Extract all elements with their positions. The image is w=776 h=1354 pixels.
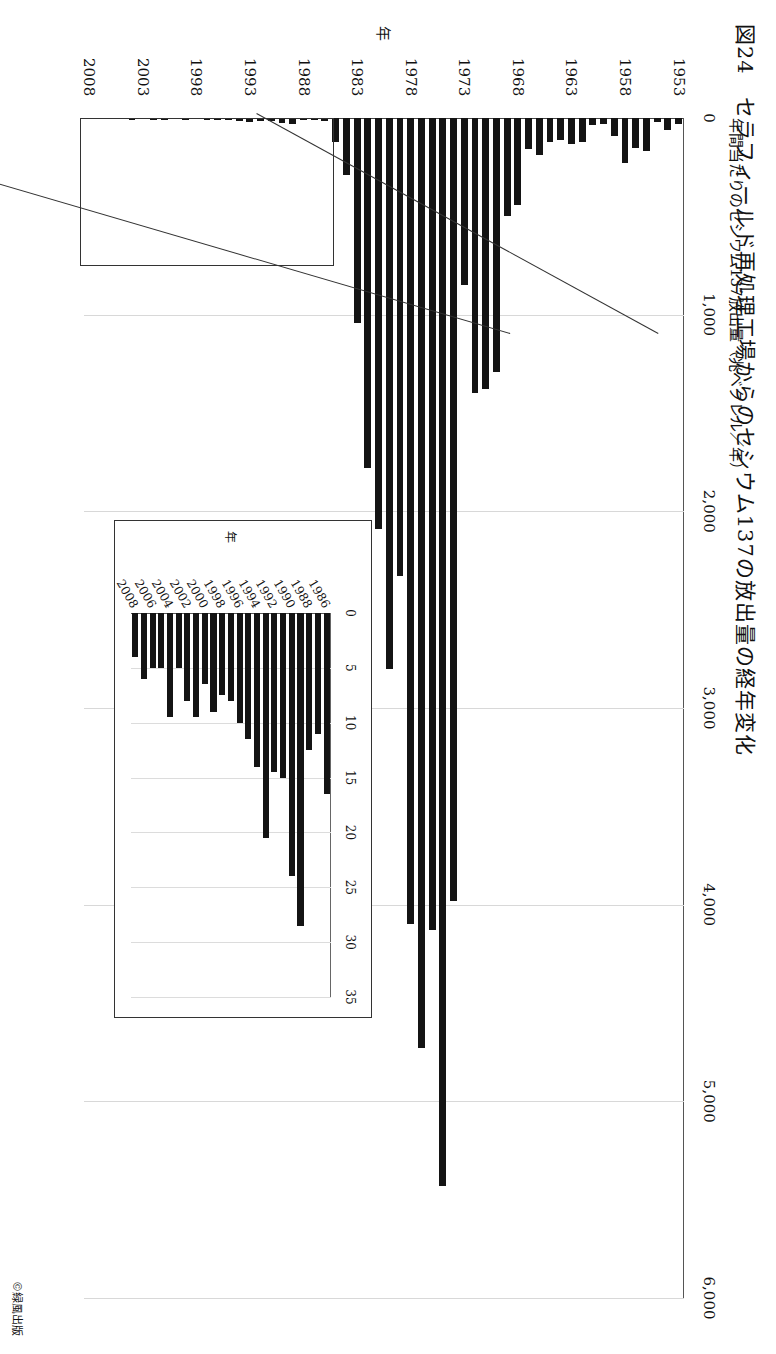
bar <box>514 118 521 205</box>
year-tick-label: 1983 <box>348 58 366 96</box>
bar-row <box>174 613 183 997</box>
bar <box>271 613 277 772</box>
bar <box>167 613 173 717</box>
bar-row <box>566 118 577 1298</box>
bar <box>193 613 199 717</box>
bar-row <box>84 118 95 1298</box>
bar-row <box>322 613 331 997</box>
bar-row <box>192 613 201 997</box>
value-tick-label: 4,000 <box>700 883 718 926</box>
bar-row <box>166 613 175 997</box>
inset-chart-bars <box>131 613 331 997</box>
bar <box>482 118 489 389</box>
bar <box>472 118 479 393</box>
bar <box>280 613 286 778</box>
bar <box>254 613 260 767</box>
bar-row <box>459 118 470 1298</box>
bar-row <box>384 118 395 1298</box>
bar-row <box>620 118 631 1298</box>
bar <box>343 118 350 175</box>
bar-row <box>253 613 262 997</box>
bar <box>632 118 639 148</box>
bar <box>386 118 393 669</box>
bar <box>557 118 564 140</box>
bar <box>158 613 164 668</box>
bar-row <box>140 613 149 997</box>
bar <box>611 118 618 136</box>
bar-row <box>305 613 314 997</box>
bar <box>263 613 269 838</box>
main-chart-value-axis-label: 年間当たりのセシウム137放出量（兆ベクレル／年） <box>727 118 748 477</box>
bar-row <box>235 613 244 997</box>
bar-row <box>523 118 534 1298</box>
bar-row <box>218 613 227 997</box>
bar <box>237 613 243 723</box>
inset-chart-panel: 05101520253035 1986198819901992199419961… <box>114 520 372 1018</box>
bar <box>324 613 330 794</box>
bar-row <box>598 118 609 1298</box>
copyright-credit: ©緑風出版 <box>10 1281 26 1336</box>
value-tick-label: 5,000 <box>700 1080 718 1123</box>
bar <box>132 613 138 657</box>
bar <box>568 118 575 144</box>
value-tick-label: 20 <box>343 825 357 840</box>
bar <box>407 118 414 924</box>
bar <box>306 613 312 750</box>
bar <box>504 118 511 216</box>
bar-row <box>555 118 566 1298</box>
bar-row <box>94 118 105 1298</box>
year-tick-label: 1963 <box>563 58 581 96</box>
bar <box>622 118 629 163</box>
bar <box>418 118 425 1048</box>
bar <box>589 118 596 125</box>
bar <box>439 118 446 1186</box>
bar <box>202 613 208 684</box>
year-tick-label: 1978 <box>402 58 420 96</box>
bar <box>397 118 404 576</box>
bar-row <box>405 118 416 1298</box>
value-tick-label: 0 <box>700 113 718 123</box>
bar-row <box>296 613 305 997</box>
bar-row <box>513 118 524 1298</box>
bar <box>450 118 457 901</box>
bar-row <box>480 118 491 1298</box>
year-tick-label: 1993 <box>241 58 259 96</box>
bar <box>643 118 650 151</box>
value-tick-label: 3,000 <box>700 687 718 730</box>
bar-row <box>534 118 545 1298</box>
bar-row <box>609 118 620 1298</box>
value-tick-label: 2,000 <box>700 490 718 533</box>
year-tick-label: 1973 <box>455 58 473 96</box>
bar <box>429 118 436 930</box>
bar <box>150 613 156 668</box>
inset-chart: 05101520253035 1986198819901992199419961… <box>131 613 331 997</box>
bar-row <box>270 613 279 997</box>
bar <box>675 118 682 124</box>
bar <box>219 613 225 695</box>
bar-row <box>395 118 406 1298</box>
bar <box>354 118 361 323</box>
value-tick-label: 25 <box>343 880 357 895</box>
year-tick-label: 1988 <box>295 58 313 96</box>
value-tick-label: 0 <box>343 609 357 617</box>
bar <box>665 118 672 130</box>
bar <box>461 118 468 285</box>
value-tick-label: 15 <box>343 770 357 785</box>
bar-row <box>663 118 674 1298</box>
bar-row <box>652 118 663 1298</box>
bar <box>654 118 661 122</box>
value-tick-label: 5 <box>343 664 357 672</box>
value-tick-label: 30 <box>343 935 357 950</box>
bar <box>228 613 234 701</box>
bar <box>600 118 607 124</box>
bar-row <box>148 613 157 997</box>
figure-canvas: 図24 セラフィールド再処理工場からのセシウム137の放出量の経年変化 ©緑風出… <box>0 0 776 1354</box>
bar-row <box>183 613 192 997</box>
bar-row <box>470 118 481 1298</box>
bar-row <box>416 118 427 1298</box>
main-chart-year-axis-title: 年 <box>374 26 395 41</box>
bar <box>298 613 304 926</box>
year-tick-label: 1953 <box>670 58 688 96</box>
bar-row <box>209 613 218 997</box>
bar-row <box>200 613 209 997</box>
